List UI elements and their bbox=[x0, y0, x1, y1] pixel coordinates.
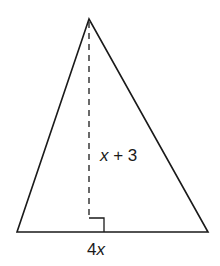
triangle bbox=[17, 19, 208, 232]
height-label: x + 3 bbox=[99, 146, 137, 165]
right-angle-marker bbox=[89, 218, 104, 232]
triangle-diagram: x + 3 4x bbox=[0, 0, 220, 266]
base-label: 4x bbox=[87, 240, 105, 259]
